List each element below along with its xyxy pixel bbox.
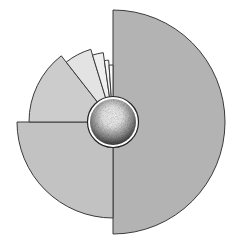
diagram-canvas xyxy=(0,0,233,252)
hub-ball xyxy=(90,99,136,145)
nautilus-diagram xyxy=(0,0,233,252)
hub-sphere xyxy=(88,97,139,148)
